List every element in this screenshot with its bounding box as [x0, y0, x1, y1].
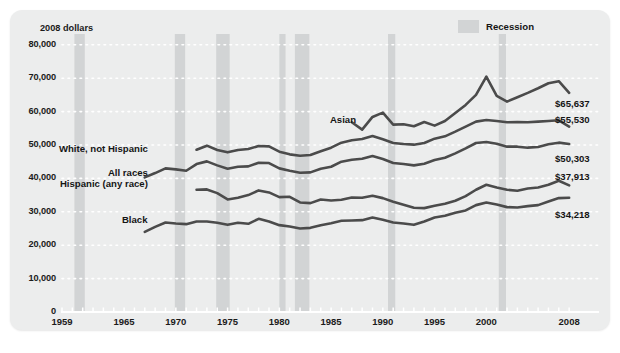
recession-band [74, 34, 84, 312]
units-label: 2008 dollars [40, 23, 93, 33]
series-label-black: Black [122, 214, 148, 225]
x-axis-tick-label: 1970 [150, 316, 202, 327]
x-axis-tick-label: 1959 [36, 316, 88, 327]
end-value-label-asian: $65,637 [555, 98, 590, 109]
y-axis-tick-label: 80,000 [10, 39, 56, 49]
y-axis-tick-label: 30,000 [10, 206, 56, 216]
chart-plot-svg [10, 10, 610, 330]
end-value-label-white-not-hispanic: $55,530 [555, 114, 590, 125]
series-line-hispanic-any-race [197, 181, 570, 208]
recession-band [388, 34, 395, 312]
x-axis-tick-label: 2008 [543, 316, 595, 327]
recession-band [279, 34, 285, 312]
recession-legend-label: Recession [486, 21, 534, 32]
x-axis-tick-label: 2000 [460, 316, 512, 327]
end-value-label-black: $34,218 [555, 209, 590, 220]
recession-band [175, 34, 185, 312]
recession-band [216, 34, 229, 312]
x-axis-tick-label: 1985 [305, 316, 357, 327]
end-value-label-hispanic-any-race: $37,913 [555, 171, 590, 182]
chart-screenshot: 2008 dollars010,00020,00030,00040,00050,… [0, 0, 620, 353]
recession-legend-swatch [458, 20, 479, 33]
series-label-asian: Asian [330, 114, 356, 125]
x-axis-tick-label: 1980 [253, 316, 305, 327]
x-axis-tick-label: 1995 [409, 316, 461, 327]
recession-band [499, 34, 506, 312]
series-label-all-races: All races [108, 167, 148, 178]
y-axis-tick-label: 20,000 [10, 239, 56, 249]
x-axis-tick-label: 1975 [202, 316, 254, 327]
y-axis-tick-label: 0 [10, 306, 56, 316]
y-axis-tick-label: 60,000 [10, 106, 56, 116]
end-value-label-all-races: $50,303 [555, 153, 590, 164]
series-line-white-not-hispanic [197, 120, 570, 156]
y-axis-tick-label: 40,000 [10, 172, 56, 182]
y-axis-tick-label: 70,000 [10, 72, 56, 82]
x-axis-tick-label: 1990 [357, 316, 409, 327]
x-axis-tick-label: 1965 [98, 316, 150, 327]
y-axis-tick-label: 50,000 [10, 139, 56, 149]
series-label-white-not-hispanic: White, not Hispanic [59, 143, 148, 154]
y-axis-tick-label: 10,000 [10, 273, 56, 283]
chart-panel: 2008 dollars010,00020,00030,00040,00050,… [10, 10, 610, 330]
series-label-hispanic-any-race: Hispanic (any race) [60, 178, 148, 189]
